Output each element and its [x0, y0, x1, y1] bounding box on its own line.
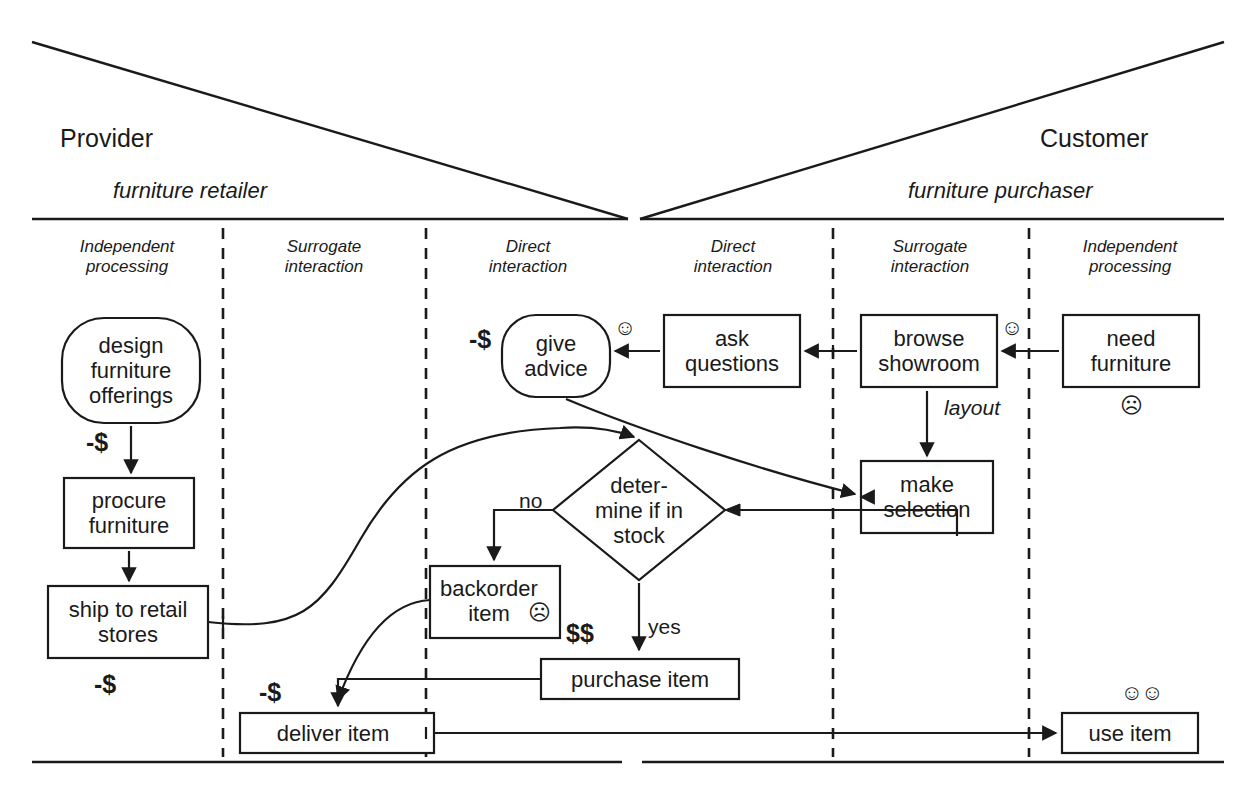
zone-header-provider-direct: Direct interaction: [489, 237, 567, 278]
node-label-give-advice: give advice: [524, 331, 588, 381]
cost-label-deliver-item: -$: [259, 678, 281, 708]
zone-line-2: interaction: [285, 257, 363, 277]
emotion-icon-backorder-item: ☹: [528, 602, 551, 624]
zone-line-2: processing: [1083, 257, 1178, 277]
node-line-2: stores: [69, 622, 188, 647]
emotion-icon-give-advice: ☺: [614, 317, 636, 339]
zone-line-1: Direct: [694, 237, 772, 257]
zone-line-1: Surrogate: [285, 237, 363, 257]
node-line-1: make: [884, 472, 971, 497]
cost-label-give-advice: -$: [469, 325, 491, 355]
node-line-2: item: [440, 601, 538, 626]
zone-line-2: processing: [80, 257, 175, 277]
node-line-1: browse: [878, 326, 979, 351]
edge-label-yes: yes: [648, 615, 681, 640]
node-label-ship-to-retail-stores: ship to retail stores: [69, 597, 188, 647]
node-label-procure-furniture: procure furniture: [89, 488, 170, 538]
node-line-1: deter-: [595, 473, 683, 498]
zone-line-2: interaction: [891, 257, 969, 277]
node-line-3: stock: [595, 524, 683, 549]
emotion-icon-need-furniture: ☹: [1120, 395, 1143, 417]
zone-header-customer-surrogate: Surrogate interaction: [891, 237, 969, 278]
node-label-browse-showroom: browse showroom: [878, 326, 979, 376]
node-label-backorder-item: backorder item: [440, 576, 538, 626]
role-subtitle-provider: furniture retailer: [113, 178, 267, 204]
role-subtitle-customer: furniture purchaser: [908, 178, 1093, 204]
zone-line-1: Independent: [1083, 237, 1178, 257]
node-line-2: furniture: [89, 513, 170, 538]
edge-label-layout: layout: [944, 396, 1000, 421]
edge-purchase-to-deliver-corner: [338, 679, 541, 706]
node-line-2: furniture: [1091, 351, 1172, 376]
node-line-1: need: [1091, 326, 1172, 351]
node-line-1: ship to retail: [69, 597, 188, 622]
cost-label-backorder: $$: [566, 619, 594, 649]
zone-line-2: interaction: [694, 257, 772, 277]
node-line-1: ask: [685, 326, 779, 351]
zone-line-1: Direct: [489, 237, 567, 257]
role-name-provider: Provider: [60, 124, 153, 154]
zone-header-provider-surrogate: Surrogate interaction: [285, 237, 363, 278]
cost-label-design-to-procure: -$: [86, 428, 108, 458]
zone-header-provider-independent: Independent processing: [80, 237, 175, 278]
cost-label-ship-to-retail: -$: [94, 670, 116, 700]
node-label-make-selection: make selection: [884, 472, 971, 522]
zone-header-customer-independent: Independent processing: [1083, 237, 1178, 278]
edge-backorder-to-deliver: [338, 600, 430, 700]
service-blueprint-diagram: Provider furniture retailer Customer fur…: [0, 0, 1255, 786]
role-name-customer: Customer: [1040, 124, 1148, 154]
node-label-determine-if-in-stock: deter- mine if in stock: [595, 473, 683, 548]
node-label-need-furniture: need furniture: [1091, 326, 1172, 376]
node-label-deliver-item: deliver item: [277, 721, 389, 746]
edge-stock-no-to-backorder: [494, 510, 553, 560]
node-label-use-item: use item: [1088, 721, 1171, 746]
node-line-1: design: [89, 333, 173, 358]
node-line-2: mine if in: [595, 498, 683, 523]
node-line-1: give: [524, 331, 588, 356]
zone-line-1: Surrogate: [891, 237, 969, 257]
node-line-1: backorder: [440, 576, 538, 601]
node-label-purchase-item: purchase item: [571, 667, 709, 692]
node-line-3: offerings: [89, 384, 173, 409]
node-line-1: procure: [89, 488, 170, 513]
node-line-2: selection: [884, 497, 971, 522]
emotion-icon-use-item: ☺☺: [1121, 682, 1162, 704]
emotion-icon-browse-showroom: ☺: [1001, 317, 1023, 339]
edge-label-no: no: [519, 489, 542, 514]
zone-line-2: interaction: [489, 257, 567, 277]
zone-header-customer-direct: Direct interaction: [694, 237, 772, 278]
edge-ship-to-determine: [208, 427, 634, 624]
arrowhead-make-selection-to-determine: [725, 504, 740, 516]
node-line-2: advice: [524, 356, 588, 381]
zone-line-1: Independent: [80, 237, 175, 257]
node-label-ask-questions: ask questions: [685, 326, 779, 376]
node-line-2: questions: [685, 351, 779, 376]
node-line-2: furniture: [89, 358, 173, 383]
node-label-design-furniture-offerings: design furniture offerings: [89, 333, 173, 408]
node-line-2: showroom: [878, 351, 979, 376]
